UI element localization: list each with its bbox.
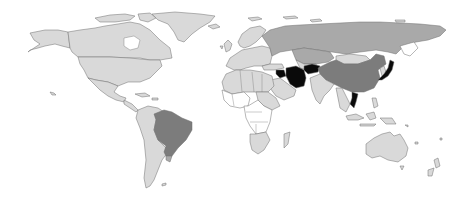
region-tasmania[interactable] — [400, 166, 404, 170]
region-united-states[interactable] — [78, 57, 162, 86]
region-uk[interactable] — [220, 40, 232, 52]
region-alaska[interactable] — [28, 30, 70, 52]
region-uruguay[interactable] — [166, 156, 172, 162]
europe — [208, 24, 272, 70]
region-madagascar[interactable] — [284, 132, 290, 148]
region-russia[interactable] — [262, 22, 446, 56]
region-philippines[interactable] — [372, 98, 378, 108]
region-new-zealand[interactable] — [428, 158, 440, 176]
south-america — [136, 106, 192, 188]
region-southern-africa[interactable] — [250, 132, 270, 154]
region-arctic-islands[interactable] — [95, 13, 156, 22]
oceania — [366, 125, 442, 176]
region-falklands — [162, 183, 166, 186]
region-scandinavia[interactable] — [238, 26, 266, 48]
region-greenland[interactable] — [152, 12, 215, 42]
region-north-africa[interactable] — [222, 70, 274, 94]
region-caribbean[interactable] — [135, 93, 158, 100]
region-vietnam[interactable] — [350, 92, 358, 108]
world-choropleth-map — [0, 0, 469, 200]
region-arctic-russia-islands — [248, 16, 405, 22]
region-indonesia[interactable] — [346, 112, 396, 126]
region-canada[interactable] — [68, 22, 172, 60]
region-pacific-islands — [405, 125, 442, 144]
asia — [310, 54, 396, 126]
region-syria-iraq[interactable] — [276, 70, 286, 78]
north-america — [28, 12, 215, 112]
region-central-america[interactable] — [124, 100, 138, 112]
region-afghanistan[interactable] — [304, 64, 320, 74]
region-southeast-asia[interactable] — [336, 88, 350, 112]
region-iceland[interactable] — [208, 24, 220, 29]
region-australia[interactable] — [366, 132, 408, 162]
region-hawaii — [50, 92, 56, 95]
